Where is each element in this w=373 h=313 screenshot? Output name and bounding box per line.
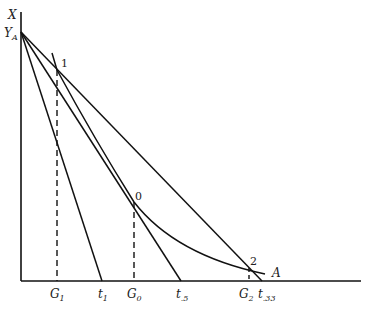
tick-g2: G2 <box>239 287 254 303</box>
y-axis-label: X <box>7 8 17 22</box>
point-2-label: 2 <box>250 255 257 268</box>
point-1-label: 1 <box>61 57 68 70</box>
point-0-label: 0 <box>135 190 142 203</box>
tick-t33: t.33 <box>258 287 276 303</box>
line-t5 <box>21 32 181 281</box>
curve-a <box>52 53 265 274</box>
y-intercept-label: YA <box>4 26 18 42</box>
tick-g0: G0 <box>127 287 142 303</box>
budget-diagram: X YA 1 0 2 A G1 t1 G0 t.5 G2 t.33 <box>0 0 373 313</box>
tick-t5: t.5 <box>176 287 188 303</box>
curve-a-label: A <box>271 266 281 280</box>
tick-t1: t1 <box>98 287 108 303</box>
tick-g1: G1 <box>50 287 65 303</box>
